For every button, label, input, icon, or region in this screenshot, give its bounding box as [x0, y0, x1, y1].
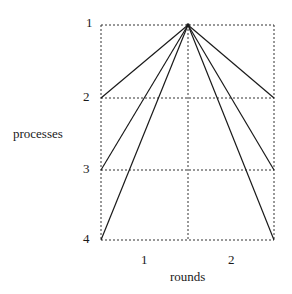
grid-lines — [101, 25, 274, 240]
x-axis-label: rounds — [170, 270, 205, 283]
round-label-2: 2 — [228, 253, 235, 266]
source-node — [186, 23, 190, 27]
process-label-3: 3 — [83, 162, 90, 175]
process-label-1: 1 — [86, 16, 93, 29]
process-label-4: 4 — [83, 232, 90, 245]
y-axis-label: processes — [13, 127, 63, 140]
message-diagram — [0, 0, 292, 294]
round-label-1: 1 — [141, 253, 148, 266]
process-label-2: 2 — [83, 90, 90, 103]
